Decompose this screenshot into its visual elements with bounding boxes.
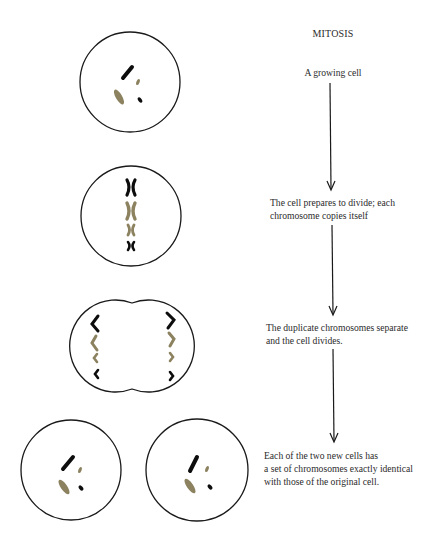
chromosome-x-olive-large — [127, 203, 135, 219]
chromosome-dark-long — [123, 67, 132, 78]
label-line: A growing cell — [304, 66, 361, 79]
chromatids-left — [92, 316, 98, 378]
label-line: with those of the original cell. — [264, 475, 413, 488]
daughter-cell-right — [146, 419, 248, 521]
cell-growing — [80, 32, 180, 132]
arrow-2-icon — [329, 225, 337, 315]
label-line: Each of the two new cells has — [264, 449, 413, 462]
chromatids-right — [167, 313, 174, 380]
arrow-1-icon — [327, 83, 335, 190]
stage-separate-label: The duplicate chromosomes separate and t… — [266, 321, 408, 347]
cell-preparing — [81, 166, 181, 266]
label-line: The duplicate chromosomes separate — [266, 321, 408, 334]
label-line: and the cell divides. — [266, 334, 408, 347]
cell-dividing — [70, 300, 195, 392]
daughter-cell-left — [21, 420, 121, 520]
stage-prepare-label: The cell prepares to divide; each chromo… — [270, 196, 395, 222]
arrow-3-icon — [330, 349, 338, 442]
chromosome-x-dark-small — [128, 242, 134, 250]
label-line: The cell prepares to divide; each — [270, 196, 395, 209]
stage-growing-label: A growing cell — [304, 66, 361, 79]
label-line: a set of chromosomes exactly identical — [264, 462, 413, 475]
chromosome-x-olive-small — [128, 225, 134, 235]
label-line: chromosome copies itself — [270, 209, 395, 222]
chromosome-x-dark-large — [127, 180, 135, 195]
chromosome-dark-small — [137, 97, 143, 104]
diagram-title: MITOSIS — [312, 27, 353, 40]
stage-result-label: Each of the two new cells has a set of c… — [264, 449, 413, 488]
chromosome-olive-small — [135, 78, 140, 85]
chromosome-olive-long — [112, 88, 126, 106]
